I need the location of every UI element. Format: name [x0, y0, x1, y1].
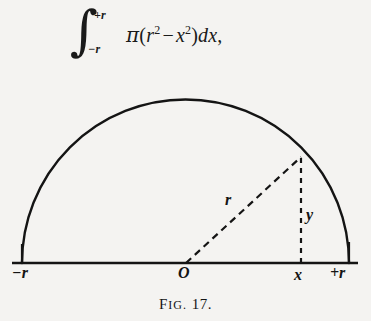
- semicircle-diagram: −r O x +r r y: [0, 78, 371, 283]
- integral-lower-limit: −r: [88, 42, 100, 57]
- label-left-endpoint: −r: [12, 264, 28, 282]
- caption-smallcaps: IG.: [168, 298, 187, 312]
- label-radius: r: [225, 191, 231, 209]
- radius-dashed-line: [186, 157, 301, 263]
- x-base: x: [176, 24, 185, 46]
- pi-symbol: π: [126, 23, 139, 47]
- integral-formula: ∫ +r −r π(r2−x2)dx,: [70, 4, 223, 66]
- minus-operator: −: [160, 24, 175, 46]
- label-right-endpoint: +r: [330, 264, 345, 282]
- caption-first-letter: F: [159, 296, 168, 312]
- figure-caption: FIG. 17.: [0, 296, 371, 313]
- integrand-expression: π(r2−x2)dx,: [126, 23, 223, 47]
- label-origin: O: [178, 264, 190, 282]
- integral-upper-limit: +r: [94, 8, 106, 23]
- diagram-svg: [0, 78, 371, 283]
- caption-number: 17.: [192, 296, 212, 312]
- label-ordinate: y: [306, 206, 313, 224]
- label-x-point: x: [294, 266, 302, 284]
- trailing-comma: ,: [217, 24, 222, 46]
- integral-with-limits: ∫ +r −r: [70, 6, 122, 64]
- figure-page: ∫ +r −r π(r2−x2)dx, −r O x +r r y FI: [0, 0, 371, 321]
- differential-dx: dx: [198, 24, 217, 46]
